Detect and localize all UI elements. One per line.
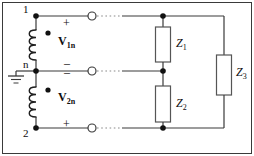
- impedance-label-z1-sub: 1: [183, 43, 187, 52]
- source-label-v1n-text: V: [58, 34, 67, 48]
- impedance-label-z1: Z1: [176, 37, 187, 52]
- inductor-v1n-coil: [29, 30, 36, 60]
- figure-border: [3, 3, 252, 154]
- polarity-dot-v1n: [45, 30, 50, 35]
- impedance-label-z2: Z2: [176, 97, 187, 112]
- terminal-1-icon[interactable]: [88, 12, 96, 20]
- impedance-label-z3-text: Z: [236, 65, 243, 79]
- impedance-label-z1-text: Z: [176, 36, 183, 50]
- source-label-v1n-sub: 1n: [67, 41, 75, 50]
- terminal-n-icon[interactable]: [88, 67, 96, 75]
- junction-node-2: [33, 125, 39, 131]
- impedance-label-z2-text: Z: [176, 96, 183, 110]
- junction-rail-bottom: [160, 125, 166, 131]
- source-label-v2n-sub: 2n: [67, 97, 75, 106]
- node-label-n: n: [23, 59, 29, 70]
- polarity-minus-v2n: –: [64, 66, 70, 78]
- impedance-label-z3-sub: 3: [243, 72, 247, 81]
- terminal-2-icon[interactable]: [88, 124, 96, 132]
- node-label-2: 2: [23, 128, 29, 139]
- circuit-schematic-svg: [0, 0, 254, 156]
- junction-rail-middle: [160, 68, 166, 74]
- ground-icon: [8, 76, 24, 83]
- node-label-1: 1: [23, 4, 29, 15]
- impedance-label-z2-sub: 2: [183, 103, 187, 112]
- junction-node-n: [33, 68, 39, 74]
- polarity-plus-v2n: +: [63, 118, 70, 130]
- circuit-diagram-figure: 1 n 2 + V1n – – V2n + Z1 Z2 Z3: [0, 0, 254, 156]
- source-label-v2n: V2n: [58, 91, 75, 106]
- source-label-v1n: V1n: [58, 35, 75, 50]
- inductor-v2n-coil: [29, 87, 36, 117]
- impedance-label-z3: Z3: [236, 66, 247, 81]
- source-label-v2n-text: V: [58, 90, 67, 104]
- impedance-z3-body: [217, 55, 232, 95]
- impedance-z2-body: [156, 86, 171, 122]
- impedance-z1-body: [156, 27, 171, 62]
- junction-node-1: [33, 13, 39, 19]
- junction-rail-top: [160, 13, 166, 19]
- polarity-plus-v1n: +: [63, 17, 70, 29]
- polarity-dot-v2n: [45, 87, 50, 92]
